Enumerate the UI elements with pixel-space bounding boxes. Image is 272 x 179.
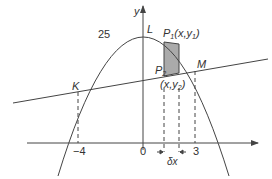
tick-label-origin: 0 <box>140 145 146 157</box>
delta-x-arrows <box>157 150 186 154</box>
max-value-label: 25 <box>98 28 110 40</box>
diagram-canvas: y 25 L P1(x,y1) P2 (x,y2) M K −4 0 3 δx <box>0 0 272 179</box>
point-l-label: L <box>147 23 153 35</box>
y-axis-label: y <box>133 5 141 17</box>
point-p2-coord-label: (x,y2) <box>160 78 186 91</box>
tick-label-left: −4 <box>73 145 86 157</box>
point-p1-label: P1(x,y1) <box>163 27 200 40</box>
point-k-label: K <box>72 80 80 92</box>
delta-x-label: δx <box>167 156 179 167</box>
straight-line <box>13 59 268 103</box>
point-m-label: M <box>197 58 207 70</box>
area-diagram: y 25 L P1(x,y1) P2 (x,y2) M K −4 0 3 δx <box>0 0 272 179</box>
tick-label-right: 3 <box>193 145 199 157</box>
